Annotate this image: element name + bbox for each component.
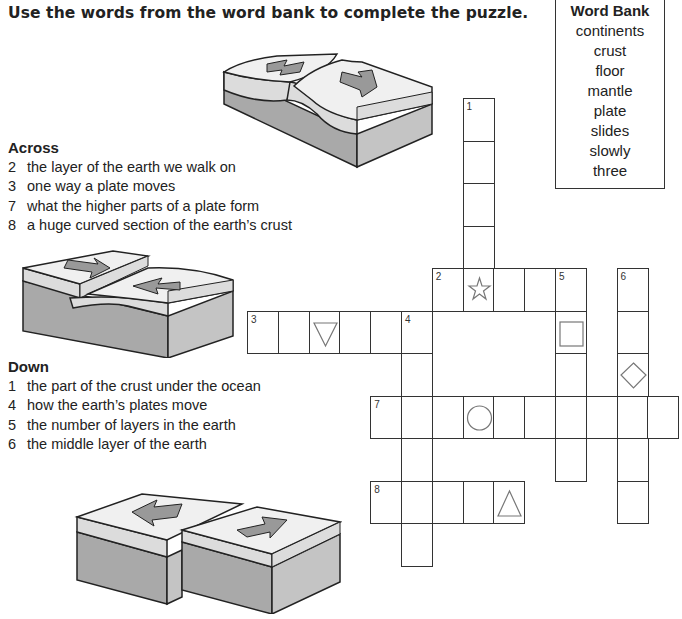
word-bank-word: mantle <box>556 81 664 101</box>
triangle-up-icon <box>494 482 525 525</box>
down-heading: Down <box>8 357 261 377</box>
crossword-cell[interactable]: 8 <box>370 481 402 525</box>
star-icon <box>464 269 495 312</box>
crossword-cell[interactable] <box>432 481 464 525</box>
clue-number: 8 <box>374 484 380 495</box>
crossword-cell[interactable] <box>339 311 371 355</box>
crossword-cell[interactable] <box>463 268 495 312</box>
crossword-cell[interactable]: 5 <box>555 268 587 312</box>
clue-number: 7 <box>374 399 380 410</box>
circle-icon <box>464 397 495 440</box>
clue-number: 1 <box>467 101 473 112</box>
word-bank-word: slides <box>556 121 664 141</box>
crossword-cell[interactable] <box>617 353 649 397</box>
crossword-cell[interactable] <box>463 183 495 227</box>
square-icon <box>556 312 587 355</box>
down-clues: Down 1 the part of the crust under the o… <box>8 357 261 455</box>
crossword-cell[interactable] <box>401 353 433 397</box>
crossword-cell[interactable] <box>309 311 341 355</box>
clue-down-4: 4 how the earth’s plates move <box>8 396 261 416</box>
clue-across-7: 7 what the higher parts of a plate form <box>8 197 292 217</box>
crossword-cell[interactable] <box>617 438 649 482</box>
crossword-cell[interactable] <box>463 141 495 185</box>
crossword-cell[interactable] <box>617 396 649 440</box>
diamond-icon <box>618 354 649 397</box>
crossword-cell[interactable]: 7 <box>370 396 402 440</box>
plates-subducting-illustration <box>18 246 240 358</box>
word-bank-word: slowly <box>556 141 664 161</box>
clue-down-1: 1 the part of the crust under the ocean <box>8 377 261 397</box>
crossword-cell[interactable] <box>555 353 587 397</box>
word-bank-word: three <box>556 161 664 181</box>
crossword-cell[interactable] <box>401 481 433 525</box>
clue-number: 6 <box>621 271 627 282</box>
word-bank-word: continents <box>556 21 664 41</box>
crossword-cell[interactable] <box>647 396 679 440</box>
clue-number: 5 <box>559 271 565 282</box>
clue-number: 2 <box>436 271 442 282</box>
crossword-cell[interactable] <box>586 396 618 440</box>
crossword-cell[interactable] <box>401 523 433 567</box>
crossword-cell[interactable] <box>278 311 310 355</box>
crossword-cell[interactable] <box>432 396 464 440</box>
word-bank-title: Word Bank <box>556 1 664 21</box>
crossword-cell[interactable] <box>493 481 525 525</box>
crossword-cell[interactable] <box>463 481 495 525</box>
word-bank-word: crust <box>556 41 664 61</box>
word-bank-word: plate <box>556 101 664 121</box>
crossword-cell[interactable] <box>524 396 556 440</box>
crossword-cell[interactable] <box>493 396 525 440</box>
clue-across-8: 8 a huge curved section of the earth’s c… <box>8 216 292 236</box>
crossword-cell[interactable]: 3 <box>247 311 279 355</box>
crossword-cell[interactable] <box>524 268 556 312</box>
crossword-cell[interactable] <box>617 481 649 525</box>
instructions: Use the words from the word bank to comp… <box>8 4 528 22</box>
plates-sliding-illustration <box>72 482 342 614</box>
clue-down-5: 5 the number of layers in the earth <box>8 416 261 436</box>
triangle-down-icon <box>310 312 341 355</box>
clue-number: 4 <box>405 314 411 325</box>
crossword-cell[interactable] <box>463 226 495 270</box>
crossword-cell[interactable] <box>493 268 525 312</box>
clue-across-3: 3 one way a plate moves <box>8 177 292 197</box>
crossword-cell[interactable] <box>617 311 649 355</box>
clue-down-6: 6 the middle layer of the earth <box>8 435 261 455</box>
clue-number: 3 <box>251 314 257 325</box>
word-bank-word: floor <box>556 61 664 81</box>
word-bank: Word Bank continents crust floor mantle … <box>555 0 665 189</box>
crossword-cell[interactable] <box>401 438 433 482</box>
crossword-cell[interactable] <box>463 396 495 440</box>
crossword-cell[interactable] <box>401 396 433 440</box>
crossword-cell[interactable]: 4 <box>401 311 433 355</box>
crossword-cell[interactable] <box>555 396 587 440</box>
crossword-cell[interactable]: 6 <box>617 268 649 312</box>
crossword-cell[interactable]: 1 <box>463 98 495 142</box>
crossword-cell[interactable] <box>555 438 587 482</box>
plates-diverging-illustration <box>212 42 442 172</box>
crossword-cell[interactable]: 2 <box>432 268 464 312</box>
crossword-cell[interactable] <box>555 311 587 355</box>
crossword-cell[interactable] <box>370 311 402 355</box>
